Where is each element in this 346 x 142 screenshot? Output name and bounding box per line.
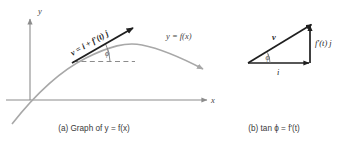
caption-b: (b) tan ϕ = f′(t) xyxy=(248,124,300,133)
velocity-hypotenuse-vector xyxy=(248,25,312,64)
angle-label-b: ϕ xyxy=(266,53,270,62)
curve-label: y = f(x) xyxy=(165,31,192,41)
velocity-label-b: v xyxy=(272,32,276,42)
horizontal-component-label: i xyxy=(277,67,280,77)
figure-container: y x ϕ v = i + f′(t) j y = f(x) (a) Graph… xyxy=(0,0,346,142)
panel-b: ϕ v f′(t) j i (b) tan ϕ = f′(t) xyxy=(248,25,332,134)
x-axis-label: x xyxy=(210,95,215,105)
caption-a: (a) Graph of y = f(x) xyxy=(58,124,130,133)
y-axis-label: y xyxy=(37,6,42,16)
angle-label-a: ϕ xyxy=(105,49,109,58)
panel-a: y x ϕ v = i + f′(t) j y = f(x) (a) Graph… xyxy=(6,6,215,133)
vertical-component-label: f′(t) j xyxy=(315,38,332,48)
figure-canvas: y x ϕ v = i + f′(t) j y = f(x) (a) Graph… xyxy=(0,0,346,142)
